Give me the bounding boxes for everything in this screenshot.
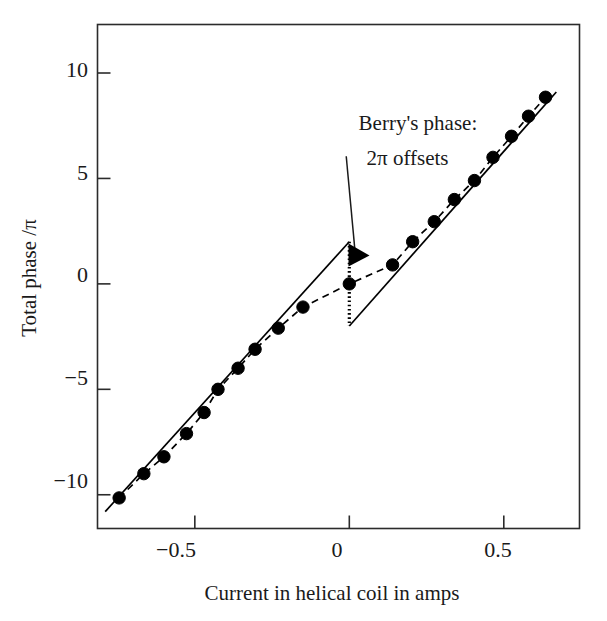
figure-container: 10 5 0 −5 −10 −0.5 0 0.5 Current in heli… (0, 0, 607, 621)
data-point-marker (212, 383, 224, 395)
y-tick-label: −10 (54, 468, 88, 493)
data-point-marker (343, 278, 355, 290)
x-tick-label: −0.5 (156, 537, 196, 562)
data-point-marker (158, 451, 170, 463)
y-axis-title: Total phase /π (17, 219, 41, 337)
data-point-marker (468, 174, 480, 186)
data-point-marker (386, 259, 398, 271)
x-tick-label: 0 (332, 537, 343, 562)
y-tick-label: 5 (77, 160, 88, 185)
y-tick-label: 10 (66, 57, 88, 82)
data-point-marker (406, 236, 418, 248)
data-point-marker (522, 110, 534, 122)
x-axis-title: Current in helical coil in amps (205, 581, 460, 605)
data-point-marker (487, 151, 499, 163)
data-point-marker (272, 322, 284, 334)
annotation-line-1: Berry's phase: (359, 111, 478, 135)
data-point-marker (428, 215, 440, 227)
data-point-marker (138, 467, 150, 479)
data-point-marker (232, 362, 244, 374)
data-point-marker (297, 301, 309, 313)
data-point-marker (249, 343, 261, 355)
data-point-marker (448, 193, 460, 205)
data-point-marker (505, 130, 517, 142)
y-tick-label: 0 (77, 262, 88, 287)
x-tick-label: 0.5 (484, 537, 512, 562)
data-point-marker (198, 406, 210, 418)
annotation-line-2: 2π offsets (367, 146, 449, 170)
y-tick-label: −5 (65, 365, 88, 390)
data-point-marker (539, 91, 551, 103)
data-point-marker (180, 427, 192, 439)
phase-vs-current-chart: 10 5 0 −5 −10 −0.5 0 0.5 Current in heli… (0, 0, 607, 621)
data-point-marker (113, 492, 125, 504)
